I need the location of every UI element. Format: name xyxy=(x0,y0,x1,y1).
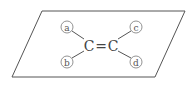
carbon-1: C xyxy=(84,38,95,54)
substituent-a: a xyxy=(61,21,73,33)
label-a: a xyxy=(64,23,70,33)
ethylene-plane-diagram: a b c d C = C xyxy=(0,0,193,88)
bond-a xyxy=(72,31,84,39)
substituent-d: d xyxy=(130,56,142,68)
bond-d xyxy=(118,51,131,58)
double-bond: = xyxy=(95,38,107,54)
carbon-2: C xyxy=(108,38,119,54)
label-d: d xyxy=(133,58,139,68)
bond-c xyxy=(118,31,131,39)
label-b: b xyxy=(64,58,70,68)
label-c: c xyxy=(133,23,138,33)
substituent-b: b xyxy=(61,56,73,68)
substituent-c: c xyxy=(130,21,142,33)
bond-b xyxy=(72,51,84,58)
